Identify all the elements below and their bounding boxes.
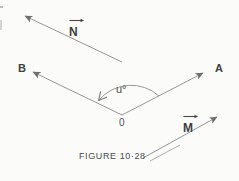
angle-label: u° bbox=[116, 84, 127, 95]
figure-10-28: N B A u° 0 M FIGURE 10·28 bbox=[0, 0, 239, 181]
vector-m-label: M bbox=[183, 121, 193, 135]
scan-artifact bbox=[0, 6, 3, 8]
origin-label: 0 bbox=[119, 118, 125, 128]
vector-m-line bbox=[143, 117, 217, 158]
vector-m-label-group: M bbox=[183, 118, 193, 136]
point-b-label: B bbox=[18, 63, 26, 74]
vector-n-label-group: N bbox=[69, 22, 78, 40]
figure-caption: FIGURE 10·28 bbox=[79, 152, 146, 161]
ray-ob-line bbox=[33, 72, 122, 115]
point-a-label: A bbox=[215, 63, 223, 74]
vector-n-label: N bbox=[69, 25, 78, 39]
angle-arc bbox=[99, 85, 159, 100]
caption-leader-line bbox=[150, 145, 180, 161]
scan-artifact-2 bbox=[0, 20, 2, 30]
ray-oa-line bbox=[122, 73, 203, 115]
